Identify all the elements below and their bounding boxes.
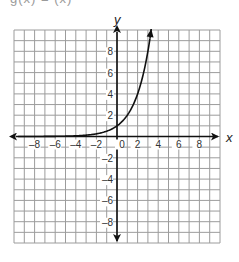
y-tick-label: 6 (107, 68, 113, 79)
y-tick-label: 4 (107, 89, 113, 100)
y-tick-label: –4 (102, 174, 114, 185)
x-tick-label: –4 (70, 139, 82, 150)
x-tick-label: 6 (176, 139, 182, 150)
x-tick-label: –2 (91, 139, 103, 150)
x-tick-label: 4 (155, 139, 161, 150)
x-tick-label: 2 (135, 139, 141, 150)
x-tick-label: –6 (50, 139, 62, 150)
x-axis-label: x (225, 130, 233, 145)
coordinate-plane: –8–6–4–2024688642–2–4–6–8xy (0, 0, 239, 262)
x-tick-label: 8 (197, 139, 203, 150)
x-tick-label: –8 (29, 139, 41, 150)
x-tick-label: 0 (119, 139, 125, 150)
tick-labels: –8–6–4–2024688642–2–4–6–8xy (28, 12, 233, 228)
exponential-curve (18, 39, 150, 137)
y-tick-label: 2 (107, 110, 113, 121)
y-tick-label: –2 (102, 153, 114, 164)
y-tick-label: –6 (102, 195, 114, 206)
y-tick-label: –8 (102, 217, 114, 228)
y-tick-label: 8 (107, 46, 113, 57)
y-axis-label: y (113, 12, 122, 27)
